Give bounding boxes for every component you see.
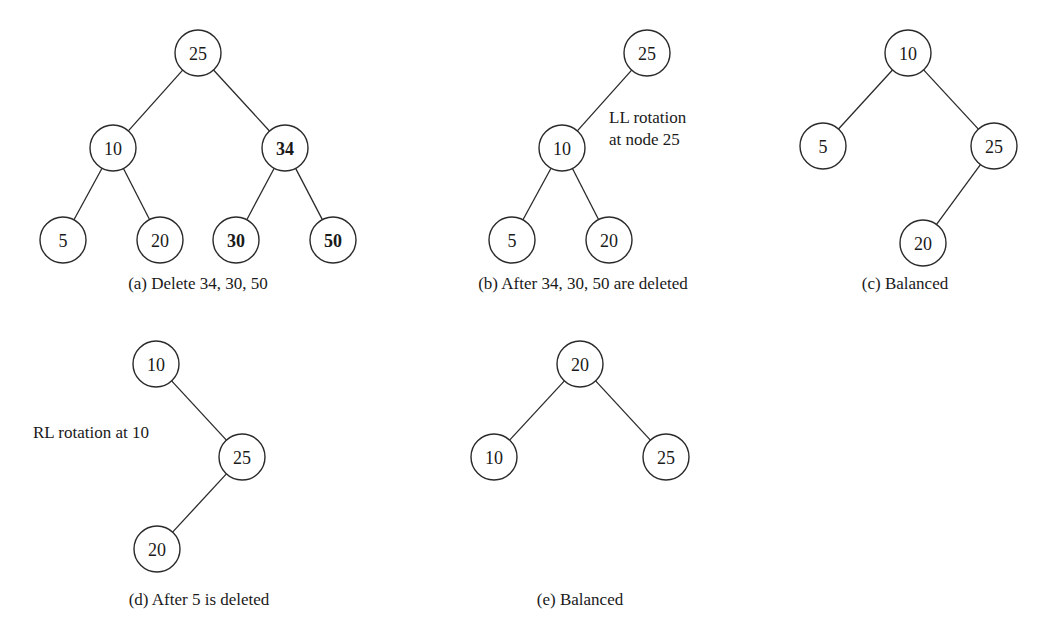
tree-node: 5	[800, 123, 846, 169]
rotation-annotation: at node 25	[609, 130, 680, 149]
tree-node: 20	[586, 217, 632, 263]
tree-node: 25	[971, 123, 1017, 169]
tree-node: 20	[134, 526, 180, 572]
node-label: 5	[508, 231, 517, 251]
node-label: 20	[148, 540, 166, 560]
tree-node: 20	[137, 217, 183, 263]
tree-edge	[123, 168, 149, 219]
panel-caption: (d) After 5 is deleted	[129, 590, 270, 609]
tree-node: 20	[557, 341, 603, 387]
tree-node: 5	[489, 217, 535, 263]
node-label: 20	[151, 231, 169, 251]
tree-node: 34	[262, 125, 308, 171]
tree-edge	[523, 168, 551, 220]
tree-edge	[173, 474, 227, 532]
avl-deletion-diagram: 2510345203050(a) Delete 34, 30, 50251052…	[0, 0, 1039, 638]
panel-caption: (a) Delete 34, 30, 50	[128, 274, 268, 293]
panel-d: 102520RL rotation at 10(d) After 5 is de…	[33, 341, 270, 609]
node-label: 5	[59, 231, 68, 251]
panel-caption: (e) Balanced	[537, 590, 624, 609]
tree-node: 25	[219, 434, 265, 480]
node-label: 20	[571, 355, 589, 375]
panel-b: 2510520LL rotationat node 25(b) After 34…	[478, 30, 688, 293]
tree-node: 10	[90, 125, 136, 171]
tree-edge	[937, 165, 981, 225]
node-label: 25	[985, 137, 1003, 157]
rotation-annotation: LL rotation	[609, 108, 687, 127]
node-label: 10	[147, 355, 165, 375]
panel-caption: (c) Balanced	[862, 274, 949, 293]
tree-node: 10	[885, 30, 931, 76]
panel-c: 1052520(c) Balanced	[800, 30, 1017, 293]
tree-node: 10	[471, 434, 517, 480]
tree-edge	[214, 70, 270, 131]
tree-node: 50	[310, 217, 356, 263]
panel-e: 201025(e) Balanced	[471, 341, 689, 609]
tree-node: 20	[900, 220, 946, 266]
tree-node: 25	[624, 30, 670, 76]
tree-edge	[839, 70, 893, 129]
tree-edge	[924, 70, 979, 129]
node-label: 5	[819, 137, 828, 157]
rotation-annotation: RL rotation at 10	[33, 423, 149, 442]
tree-edge	[572, 168, 598, 219]
node-label: 10	[553, 139, 571, 159]
tree-edge	[296, 168, 323, 219]
panel-a: 2510345203050(a) Delete 34, 30, 50	[40, 30, 356, 293]
panel-caption: (b) After 34, 30, 50 are deleted	[478, 274, 688, 293]
tree-edge	[247, 168, 274, 219]
tree-edge	[74, 168, 102, 220]
tree-node: 25	[175, 30, 221, 76]
tree-node: 5	[40, 217, 86, 263]
node-label: 25	[189, 44, 207, 64]
node-label: 10	[899, 44, 917, 64]
node-label: 25	[638, 44, 656, 64]
tree-edge	[172, 381, 227, 440]
tree-edge	[596, 381, 651, 440]
tree-node: 25	[643, 434, 689, 480]
node-label: 34	[276, 139, 294, 159]
tree-edge	[128, 70, 182, 131]
node-label: 25	[233, 448, 251, 468]
node-label: 50	[324, 231, 342, 251]
tree-node: 10	[133, 341, 179, 387]
node-label: 10	[485, 448, 503, 468]
node-label: 25	[657, 448, 675, 468]
tree-node: 30	[213, 217, 259, 263]
node-label: 20	[600, 231, 618, 251]
tree-node: 10	[539, 125, 585, 171]
node-label: 20	[914, 234, 932, 254]
node-label: 10	[104, 139, 122, 159]
node-label: 30	[227, 231, 245, 251]
tree-edge	[510, 381, 565, 440]
